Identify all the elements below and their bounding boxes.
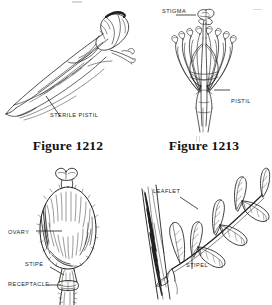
figure-1213-illustration [136,2,272,134]
label-leaflet: LEAFLET [153,189,180,195]
figure-1212-caption: Figure 1212 [18,138,118,154]
leaflet-leader [180,197,198,209]
label-sterile-pistil: STERILE PISTIL [50,113,98,119]
label-receptacle: RECEPTACLE [8,282,49,288]
label-stigma: STIGMA [162,9,186,15]
scan-artifact [72,1,82,3]
label-ovary: OVARY [8,230,29,236]
label-stipe: STIPE [25,262,43,268]
compound-leaf-drawing [136,163,272,305]
pistil-stamens-drawing [136,2,272,134]
illustration-page: STERILE PISTIL Figure 1212 [0,0,272,305]
figure-1213-caption: Figure 1213 [154,138,254,154]
label-pistil: PISTIL [231,99,251,105]
label-stipel: STIPEL [186,263,208,269]
leaflet-illustration [136,163,272,305]
